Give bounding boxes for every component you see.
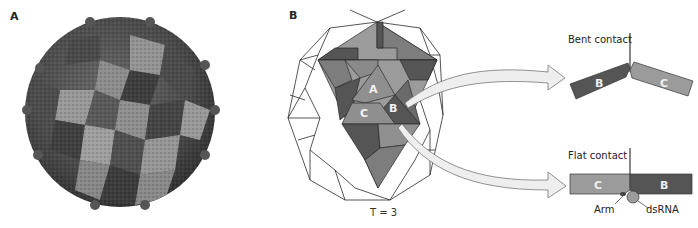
virus-capsid-image: [20, 15, 220, 215]
flat-b-label: B: [660, 179, 668, 192]
subunit-c-label: C: [360, 107, 368, 120]
lattice-label: T = 3: [369, 207, 397, 218]
figure-canvas: A B C T = 3 B C Bent contact C B Flat co…: [0, 0, 698, 228]
subunit-b-label: B: [389, 102, 397, 115]
flat-contact-title: Flat contact: [568, 150, 627, 161]
subunit-a-label: A: [369, 83, 378, 96]
flat-c-label: C: [594, 179, 602, 192]
bent-c-label: C: [660, 77, 668, 90]
bent-contact-title: Bent contact: [568, 34, 632, 45]
arm-label: Arm: [594, 204, 615, 215]
bent-b-label: B: [595, 77, 603, 90]
dsrna-label: dsRNA: [646, 204, 679, 215]
